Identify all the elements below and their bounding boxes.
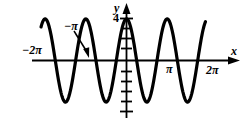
x-tick-label-two-pi: 2π <box>206 64 219 76</box>
x-tick-label-neg-two-pi: −2π <box>22 44 42 56</box>
trig-graph-figure: x y 4 −2π −π π 2π <box>0 0 249 124</box>
x-tick-label-pi: π <box>166 63 173 75</box>
y-axis-arrowhead <box>123 3 131 14</box>
annotation-label-neg-pi: −π <box>64 20 78 32</box>
y-tick-label-4: 4 <box>113 12 119 24</box>
plot-canvas <box>0 0 249 124</box>
annotation-arrow-head <box>83 47 89 58</box>
x-axis-label: x <box>231 45 237 57</box>
